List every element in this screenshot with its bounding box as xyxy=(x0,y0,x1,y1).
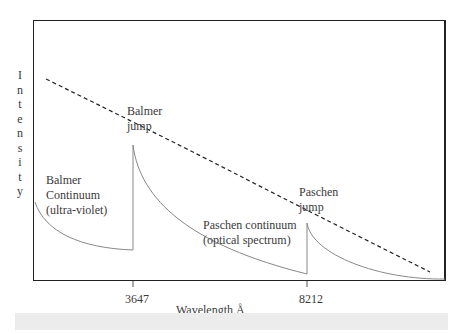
paschen-continuum-label: Paschen continuum (optical spectrum) xyxy=(203,218,297,248)
x-tick-label-8212: 8212 xyxy=(299,292,323,307)
balmer-jump-label: Balmer jump xyxy=(127,104,162,134)
footer-bar xyxy=(15,313,448,330)
brackett-continuum-curve xyxy=(307,223,445,279)
balmer-continuum-label: Balmer Continuum (ultra-violet) xyxy=(46,173,107,218)
paschen-jump-label: Paschen jump xyxy=(299,185,338,215)
x-tick-label-3647: 3647 xyxy=(125,292,149,307)
y-axis-label: Intensity xyxy=(14,68,26,199)
paschen-continuum-curve xyxy=(133,145,307,274)
spectrum-curves xyxy=(0,0,463,334)
